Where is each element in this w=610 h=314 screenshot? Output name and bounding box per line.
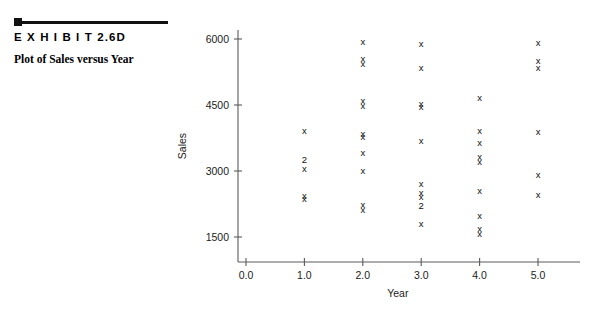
data-point: x	[536, 189, 541, 200]
y-tick-label: 6000	[206, 33, 230, 45]
data-point: x	[477, 210, 482, 221]
data-point: x	[360, 204, 365, 215]
data-point: x	[419, 101, 424, 112]
y-tick-label: 1500	[206, 231, 230, 243]
data-point: x	[477, 125, 482, 136]
data-point: x	[477, 228, 482, 239]
data-point: x	[360, 131, 365, 142]
data-point: x	[419, 38, 424, 49]
data-point: x	[360, 100, 365, 111]
x-tick-label: 4.0	[472, 269, 487, 281]
x-tick-label: 5.0	[531, 269, 546, 281]
y-tick-label: 4500	[206, 99, 230, 111]
data-point: x	[477, 137, 482, 148]
data-point-overlap: 2	[419, 200, 424, 211]
x-tick-label: 2.0	[355, 269, 370, 281]
data-point: x	[536, 37, 541, 48]
data-point: x	[419, 135, 424, 146]
data-point: x	[360, 165, 365, 176]
scatter-plot: 1500300045006000 0.01.02.03.04.05.0 x2xx…	[0, 0, 610, 314]
data-point: x	[360, 147, 365, 158]
x-tick-label: 3.0	[414, 269, 429, 281]
data-point: x	[477, 156, 482, 167]
x-axis-title: Year	[387, 287, 409, 299]
data-point: x	[419, 218, 424, 229]
y-axis-title: Sales	[176, 133, 188, 159]
y-axis: 1500300045006000	[206, 30, 242, 262]
chart-canvas: 1500300045006000 0.01.02.03.04.05.0 x2xx…	[0, 0, 610, 314]
x-tick-label: 0.0	[239, 269, 254, 281]
x-tick-label: 1.0	[297, 269, 312, 281]
data-point: x	[302, 163, 307, 174]
data-point: x	[536, 169, 541, 180]
data-point-layer: x2xxxxxxxxxxxxxxxxxxxxxx2xxxxxxxxxxxxxxx…	[302, 36, 541, 239]
x-axis: 0.01.02.03.04.05.0	[238, 258, 580, 281]
data-point: x	[302, 193, 307, 204]
data-point: x	[536, 62, 541, 73]
data-point: x	[477, 92, 482, 103]
data-point: x	[360, 36, 365, 47]
data-point: x	[536, 126, 541, 137]
data-point: x	[419, 62, 424, 73]
data-point: x	[302, 125, 307, 136]
y-tick-label: 3000	[206, 165, 230, 177]
data-point: x	[360, 58, 365, 69]
data-point: x	[477, 185, 482, 196]
